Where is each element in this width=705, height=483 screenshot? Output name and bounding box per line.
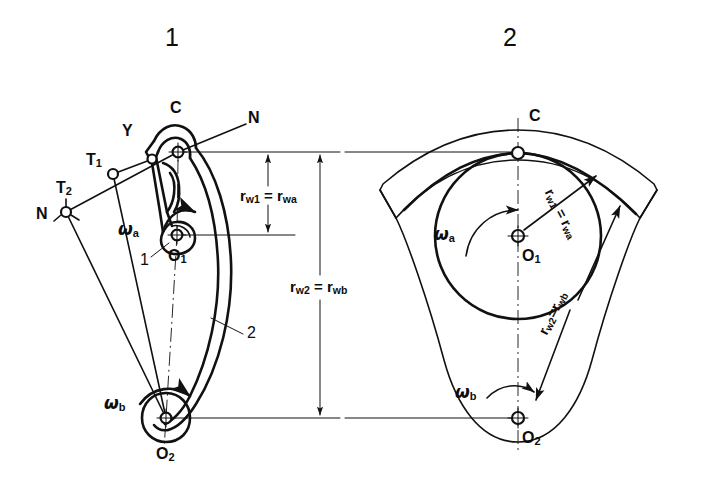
joint-t1-panel1 bbox=[108, 169, 118, 179]
contact-arc-panel2 bbox=[404, 153, 636, 214]
label-center-1-panel2: O1 bbox=[522, 248, 541, 265]
label-center-2-main: O bbox=[156, 445, 168, 462]
label-omega-a-main: ω bbox=[118, 219, 133, 239]
center-mark-c-panel2 bbox=[512, 147, 524, 159]
label-center-1-panel1: O1 bbox=[168, 248, 187, 265]
center-mark-o2-panel2 bbox=[508, 408, 528, 428]
panel-2-title: 2 bbox=[503, 25, 517, 50]
label-center-2-sub-p2: 2 bbox=[534, 435, 540, 447]
dim-rw1-subb: wa bbox=[283, 193, 297, 205]
label-tangent-2-panel1: T2 bbox=[56, 180, 72, 197]
dim-rw2-suba: w2 bbox=[296, 284, 310, 296]
omega-b-arc-panel2 bbox=[487, 386, 534, 398]
band-facet-left-panel2 bbox=[380, 190, 396, 218]
dim-label-rw1-panel1: rw1 = rwa bbox=[240, 188, 297, 205]
label-omega-b-main: ω bbox=[104, 393, 119, 413]
label-omega-b-panel2: ωb bbox=[455, 384, 477, 402]
frame-link-t2-o2-panel1 bbox=[66, 212, 166, 418]
dim-rw1-eq: = bbox=[260, 187, 277, 204]
label-center-1-main-p2: O bbox=[522, 247, 534, 264]
label-center-2-panel2: O2 bbox=[522, 430, 541, 447]
dim-label-rw2-panel1: rw2 = rwb bbox=[290, 279, 347, 296]
omega-a-arc-panel2 bbox=[466, 210, 518, 256]
label-center-2-main-p2: O bbox=[522, 429, 534, 446]
label-omega-a-sub-p2: a bbox=[449, 232, 455, 244]
frame-link-t1-o2-panel1 bbox=[113, 174, 166, 418]
label-point-y-panel1: Y bbox=[122, 123, 133, 139]
dim-rw2-subb: wb bbox=[333, 284, 348, 296]
label-part-2-panel1: 2 bbox=[247, 325, 256, 341]
panel-1-title: 1 bbox=[165, 25, 179, 50]
label-omega-a-sub: a bbox=[133, 227, 139, 239]
label-omega-a-main-p2: ω bbox=[434, 224, 449, 244]
label-omega-a-panel1: ωa bbox=[118, 221, 139, 239]
label-omega-b-sub: b bbox=[119, 401, 126, 413]
label-normal-lower-panel1: N bbox=[36, 206, 48, 222]
label-tangent-1-panel1: T1 bbox=[86, 152, 102, 169]
label-omega-b-sub-p2: b bbox=[470, 390, 477, 402]
band-facet-right-panel2 bbox=[640, 190, 657, 218]
lever-slot-inner-panel1 bbox=[167, 173, 174, 212]
label-part-1-panel1: 1 bbox=[140, 252, 149, 268]
label-omega-a-panel2: ωa bbox=[434, 226, 455, 244]
dim-rw1-suba: w1 bbox=[246, 193, 260, 205]
label-tangent-2-sub: 2 bbox=[66, 185, 72, 197]
label-center-2-panel1: O2 bbox=[156, 446, 175, 463]
label-center-1-main: O bbox=[168, 247, 180, 264]
label-contact-point-panel1: C bbox=[170, 100, 182, 116]
joint-t2-panel1 bbox=[61, 207, 71, 217]
normal-line-upper-panel1 bbox=[178, 124, 246, 152]
label-omega-b-panel1: ωb bbox=[104, 395, 126, 413]
dim-rw2-eq: = bbox=[310, 278, 327, 295]
label-tangent-1-sub: 1 bbox=[96, 157, 102, 169]
panel-2-graphics bbox=[345, 118, 657, 452]
rocker-body-left-panel1 bbox=[152, 163, 163, 232]
body-outer-profile-panel2 bbox=[380, 130, 657, 442]
label-tangent-2-main: T bbox=[56, 179, 66, 196]
label-center-1-sub: 1 bbox=[180, 253, 186, 265]
label-center-1-sub-p2: 1 bbox=[534, 253, 540, 265]
label-omega-b-main-p2: ω bbox=[455, 382, 470, 402]
label-contact-point-panel2: C bbox=[529, 108, 541, 124]
label-normal-upper-panel1: N bbox=[248, 110, 260, 126]
label-tangent-1-main: T bbox=[86, 151, 96, 168]
label-center-2-sub: 2 bbox=[168, 451, 174, 463]
joint-y-panel1 bbox=[148, 155, 157, 164]
figure-root: 1 2 C N N Y T1 T2 ωa ωb O1 O2 1 2 rw1 = … bbox=[0, 0, 705, 483]
